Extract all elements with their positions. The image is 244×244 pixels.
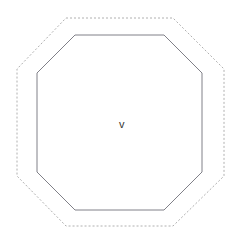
center-vertex-label: v [119,119,125,130]
octagon-shape-view: v [0,0,244,244]
